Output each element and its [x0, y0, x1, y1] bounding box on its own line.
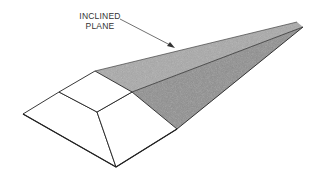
- arrowhead-icon: [167, 42, 175, 48]
- inclined-plane-diagram: [0, 0, 327, 179]
- inclined-plane-label: INCLINED PLANE: [74, 11, 126, 31]
- label-line-1: INCLINED: [74, 11, 126, 21]
- label-line-2: PLANE: [74, 21, 126, 31]
- leader-line: [120, 19, 172, 46]
